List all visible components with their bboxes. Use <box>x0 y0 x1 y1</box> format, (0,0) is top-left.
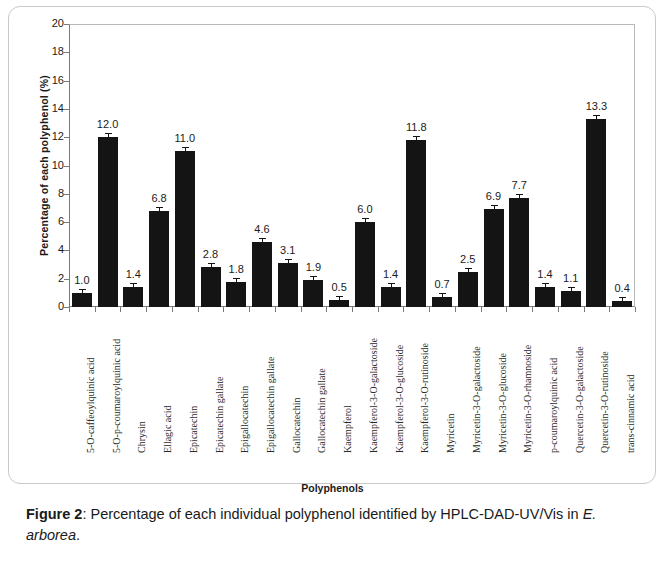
x-tick-mark <box>429 307 430 312</box>
error-bar-cap <box>310 276 317 277</box>
bar-value-label: 2.5 <box>451 254 485 265</box>
bar-value-label: 2.8 <box>194 249 228 260</box>
y-tick-mark <box>64 137 69 138</box>
y-tick-label: 8 <box>42 188 64 199</box>
bar-value-label: 0.5 <box>322 282 356 293</box>
bar <box>561 291 581 307</box>
error-bar-cap <box>285 259 292 260</box>
x-tick-mark <box>301 307 302 312</box>
error-bar-cap <box>516 194 523 195</box>
error-bar-cap <box>79 289 86 290</box>
x-axis-category-label: Myricetin-3-O-galactoside <box>472 346 482 453</box>
bar <box>509 198 529 307</box>
x-tick-mark <box>584 307 585 312</box>
bar <box>329 300 349 307</box>
x-tick-mark <box>275 307 276 312</box>
bar-value-label: 6.0 <box>348 204 382 215</box>
error-bar-cap <box>208 263 215 264</box>
y-tick-mark <box>64 52 69 53</box>
x-tick-mark <box>481 307 482 312</box>
x-tick-mark <box>326 307 327 312</box>
x-axis-category-label: Myricetin-3-O-glucoside <box>498 353 508 453</box>
error-bar-cap <box>182 147 189 148</box>
x-tick-mark <box>609 307 610 312</box>
bar <box>149 211 169 307</box>
x-tick-mark <box>532 307 533 312</box>
bar <box>612 301 632 307</box>
x-axis-category-label: Epigallocatechin <box>240 386 250 453</box>
y-tick-mark <box>64 24 69 25</box>
bar-value-label: 6.9 <box>477 191 511 202</box>
y-tick-label: 20 <box>42 18 64 29</box>
x-axis-category-label: Ellagic acid <box>163 406 173 453</box>
bar-value-label: 0.4 <box>605 283 639 294</box>
x-axis-category-label: Gallocatechin gallate <box>317 368 327 453</box>
x-axis-category-label: Quercetin-3-O-galactoside <box>575 346 585 453</box>
bar <box>484 209 504 307</box>
error-bar-cap <box>542 283 549 284</box>
x-axis-category-label: Quercetin-3-O-rutinoside <box>600 351 610 453</box>
x-axis-category-label: Epicatechin <box>189 406 199 453</box>
bar-value-label: 1.1 <box>554 273 588 284</box>
error-bar-cap <box>593 115 600 116</box>
x-tick-mark <box>403 307 404 312</box>
x-tick-mark <box>558 307 559 312</box>
bar-value-label: 11.0 <box>168 133 202 144</box>
y-axis-ticks: 02468101214161820 <box>40 0 64 485</box>
y-tick-mark <box>64 166 69 167</box>
bar <box>586 119 606 307</box>
x-axis-category-label: Myricetin <box>446 414 456 453</box>
bar-value-label: 0.7 <box>425 279 459 290</box>
x-tick-mark <box>223 307 224 312</box>
y-tick-mark <box>64 279 69 280</box>
bar <box>535 287 555 307</box>
x-axis-category-label: 5-O-caffeoylquinic acid <box>86 357 96 453</box>
y-tick-label: 0 <box>42 301 64 312</box>
y-tick-mark <box>64 109 69 110</box>
x-tick-mark <box>120 307 121 312</box>
error-bar-cap <box>491 205 498 206</box>
error-bar-cap <box>568 287 575 288</box>
bar-chart: Percentage of each polyphenol (%) 024681… <box>0 0 665 485</box>
bar-value-label: 12.0 <box>91 119 125 130</box>
error-bar-cap <box>413 136 420 137</box>
x-tick-mark <box>635 307 636 312</box>
x-tick-mark <box>146 307 147 312</box>
bar <box>355 222 375 307</box>
error-bar-cap <box>259 238 266 239</box>
bar-value-label: 4.6 <box>245 224 279 235</box>
error-bar-cap <box>233 278 240 279</box>
y-tick-mark <box>64 222 69 223</box>
bar <box>72 293 92 307</box>
bar <box>252 242 272 307</box>
bar-value-label: 13.3 <box>579 101 613 112</box>
bar-value-label: 1.4 <box>116 269 150 280</box>
bar-value-label: 7.7 <box>502 180 536 191</box>
x-axis-category-label: Kaempferol-3-O-glucoside <box>395 345 405 453</box>
bar-value-label: 1.4 <box>374 269 408 280</box>
y-tick-label: 4 <box>42 244 64 255</box>
y-tick-label: 18 <box>42 46 64 57</box>
bar <box>175 151 195 307</box>
x-axis-category-label: Chrysin <box>137 421 147 453</box>
caption-text-part1: Percentage of each individual polyphenol… <box>90 506 582 522</box>
x-tick-mark <box>506 307 507 312</box>
error-bar-cap <box>619 297 626 298</box>
x-axis-title: Polyphenols <box>0 482 665 494</box>
error-bar-cap <box>439 293 446 294</box>
error-bar-cap <box>130 283 137 284</box>
bar-value-label: 1.9 <box>296 262 330 273</box>
y-tick-label: 14 <box>42 103 64 114</box>
bar <box>226 282 246 307</box>
x-tick-mark <box>249 307 250 312</box>
x-axis-category-label: Epigallocatechin gallate <box>266 357 276 453</box>
figure-caption: Figure 2: Percentage of each individual … <box>26 504 638 545</box>
bar-value-label: 3.1 <box>271 245 305 256</box>
x-axis-category-label: Myricetin-3-O-rhamnoside <box>523 345 533 453</box>
y-tick-label: 12 <box>42 131 64 142</box>
bar-value-label: 11.8 <box>399 122 433 133</box>
bar-value-label: 6.8 <box>142 193 176 204</box>
bar <box>98 137 118 307</box>
bar <box>201 267 221 307</box>
x-tick-mark <box>352 307 353 312</box>
